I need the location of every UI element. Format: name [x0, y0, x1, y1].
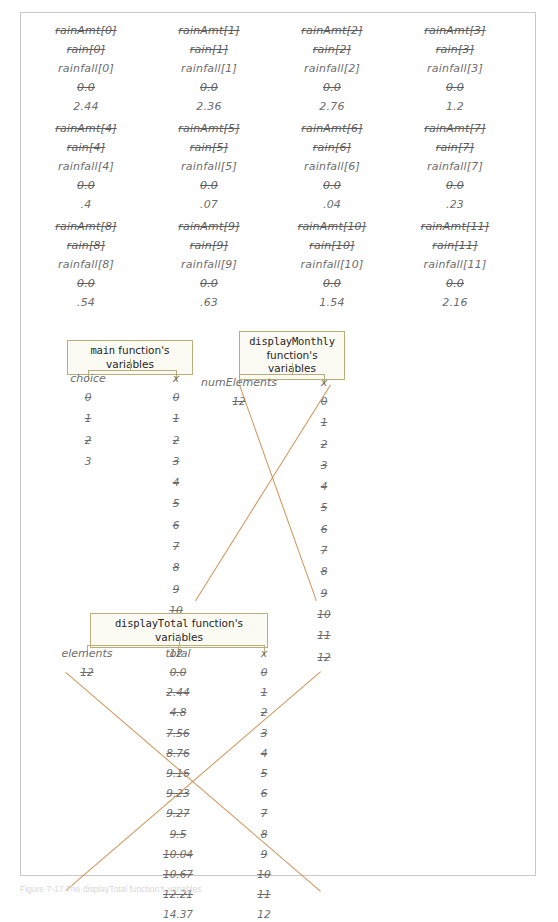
- array-cell-name: rainfall[1]: [149, 59, 269, 78]
- array-cell-value: .63: [149, 293, 269, 312]
- main-box-title-mono: main: [90, 344, 115, 356]
- variable-value: 6: [214, 783, 314, 803]
- array-cell: rainAmt[1]rain[1]rainfall[1]0.02.36: [149, 21, 269, 116]
- variable-value: 14.37: [128, 904, 228, 922]
- array-cell-old-name-1: rainAmt[4]: [26, 119, 146, 138]
- array-cell: rainAmt[3]rain[3]rainfall[3]0.01.2: [395, 21, 515, 116]
- variable-value: 0: [214, 662, 314, 682]
- array-cell: rainAmt[0]rain[0]rainfall[0]0.02.44: [26, 21, 146, 116]
- connector-stem: [292, 363, 293, 374]
- array-cell-old-name-2: rain[10]: [272, 236, 392, 255]
- array-cell-name: rainfall[11]: [395, 255, 515, 274]
- array-cell-value: 2.16: [395, 293, 515, 312]
- array-cell-value: .07: [149, 195, 269, 214]
- array-cell-old-name-2: rain[1]: [149, 40, 269, 59]
- array-cell-name: rainfall[7]: [395, 157, 515, 176]
- array-cell-old-name-1: rainAmt[11]: [395, 217, 515, 236]
- array-cell-old-value: 0.0: [272, 78, 392, 97]
- variable-value: 2: [126, 430, 226, 451]
- variable-value: 5: [274, 497, 374, 518]
- array-cell-value: .54: [26, 293, 146, 312]
- variable-value: 7: [274, 540, 374, 561]
- variable-value: 9.5: [128, 824, 228, 844]
- variable-value: 10.04: [128, 844, 228, 864]
- array-cell-old-name-2: rain[11]: [395, 236, 515, 255]
- array-cell-old-name-2: rain[6]: [272, 138, 392, 157]
- variable-value: 4: [214, 743, 314, 763]
- variable-value: 8: [214, 824, 314, 844]
- array-cell-name: rainfall[6]: [272, 157, 392, 176]
- array-cell-name: rainfall[10]: [272, 255, 392, 274]
- variable-value: 0.0: [128, 662, 228, 682]
- variable-value: 9.27: [128, 803, 228, 823]
- variable-value: 9: [126, 579, 226, 600]
- variable-value: 1: [214, 682, 314, 702]
- connector-stem: [130, 359, 131, 370]
- variable-column: choice0123: [38, 371, 138, 472]
- array-cell-value: 2.44: [26, 97, 146, 116]
- variable-value: 1: [38, 408, 138, 429]
- array-cell-value: 2.36: [149, 97, 269, 116]
- array-cell-old-name-1: rainAmt[6]: [272, 119, 392, 138]
- array-cell-old-name-1: rainAmt[2]: [272, 21, 392, 40]
- array-cell-old-name-1: rainAmt[5]: [149, 119, 269, 138]
- variable-value: 3: [274, 455, 374, 476]
- array-cell-old-name-1: rainAmt[0]: [26, 21, 146, 40]
- array-cell-old-name-1: rainAmt[3]: [395, 21, 515, 40]
- variable-value: 10: [274, 604, 374, 625]
- variable-value: 4.8: [128, 702, 228, 722]
- variable-value: 5: [214, 763, 314, 783]
- array-cell-old-value: 0.0: [149, 176, 269, 195]
- variable-value: 8: [274, 561, 374, 582]
- dm-box-title-mono: displayMonthly: [249, 335, 335, 347]
- figure-caption: Figure 7-17 The displayTotal function's …: [20, 884, 520, 894]
- variable-name: elements: [37, 646, 137, 662]
- array-cell-old-value: 0.0: [149, 274, 269, 293]
- array-cell-old-name-1: rainAmt[10]: [272, 217, 392, 236]
- array-cell: rainAmt[10]rain[10]rainfall[10]0.01.54: [272, 217, 392, 312]
- variable-value: 4: [274, 476, 374, 497]
- array-cell-value: .4: [26, 195, 146, 214]
- main-box-title-rest: function's variables: [106, 344, 169, 370]
- variable-value: 0: [38, 387, 138, 408]
- array-cell-name: rainfall[0]: [26, 59, 146, 78]
- array-cell-old-name-1: rainAmt[1]: [149, 21, 269, 40]
- array-cell-value: 1.2: [395, 97, 515, 116]
- variable-column: total0.02.444.87.568.769.169.239.279.510…: [128, 646, 228, 922]
- array-cell-old-name-2: rain[7]: [395, 138, 515, 157]
- variable-name: x: [214, 646, 314, 662]
- variable-value: 12: [37, 662, 137, 682]
- array-cell-old-name-2: rain[5]: [149, 138, 269, 157]
- array-cell-old-name-2: rain[0]: [26, 40, 146, 59]
- variable-name: choice: [38, 371, 138, 387]
- array-cell: rainAmt[4]rain[4]rainfall[4]0.0.4: [26, 119, 146, 214]
- variable-value: 4: [126, 472, 226, 493]
- array-cell-old-value: 0.0: [26, 78, 146, 97]
- array-cell-name: rainfall[9]: [149, 255, 269, 274]
- array-cell-old-name-2: rain[2]: [272, 40, 392, 59]
- variable-value: 9: [214, 844, 314, 864]
- array-cell-value: 1.54: [272, 293, 392, 312]
- array-cell: rainAmt[7]rain[7]rainfall[7]0.0.23: [395, 119, 515, 214]
- variable-value: 12: [214, 904, 314, 922]
- array-cell-name: rainfall[4]: [26, 157, 146, 176]
- variable-value: 3: [126, 451, 226, 472]
- variable-value: 10.67: [128, 864, 228, 884]
- array-cell-old-name-1: rainAmt[7]: [395, 119, 515, 138]
- array-cell: rainAmt[5]rain[5]rainfall[5]0.0.07: [149, 119, 269, 214]
- array-cell: rainAmt[8]rain[8]rainfall[8]0.0.54: [26, 217, 146, 312]
- variable-value: 9: [274, 583, 374, 604]
- variable-value: 8.76: [128, 743, 228, 763]
- variable-value: 2.44: [128, 682, 228, 702]
- array-cell-old-name-1: rainAmt[9]: [149, 217, 269, 236]
- array-cell-value: 2.76: [272, 97, 392, 116]
- array-cell-old-value: 0.0: [395, 78, 515, 97]
- variable-value: 3: [38, 451, 138, 472]
- array-cell-old-value: 0.0: [26, 274, 146, 293]
- array-cell-old-value: 0.0: [395, 274, 515, 293]
- array-cell-old-name-2: rain[9]: [149, 236, 269, 255]
- variable-value: 2: [38, 430, 138, 451]
- array-cell-old-value: 0.0: [26, 176, 146, 195]
- array-cell-value: .23: [395, 195, 515, 214]
- array-cell-name: rainfall[2]: [272, 59, 392, 78]
